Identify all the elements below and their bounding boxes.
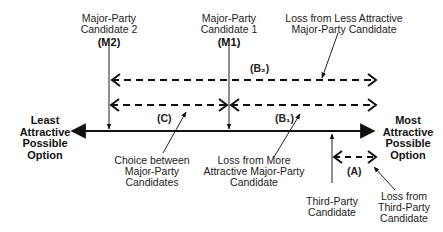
segment-c-label: (C)	[157, 112, 172, 124]
right-endpoint-line3: Possible	[375, 138, 441, 150]
right-endpoint-label: Most Attractive Possible Option	[375, 115, 441, 161]
loss-more-attractive-line3: Candidate	[198, 177, 310, 188]
right-endpoint-line4: Option	[375, 150, 441, 162]
loss-third-party-label: Loss from Third-Party Candidate	[372, 191, 436, 224]
m1-code: (M1)	[199, 37, 259, 49]
segment-a-label: (A)	[347, 165, 362, 177]
loss-third-party-line3: Candidate	[372, 213, 436, 224]
loss-less-attractive-label: Loss from Less Attractive Major-Party Ca…	[284, 13, 404, 35]
left-endpoint-line1: Least	[12, 115, 78, 127]
loss-more-attractive-label: Loss from More Attractive Major-Party Ca…	[198, 155, 310, 188]
segment-c-arrow	[111, 99, 227, 111]
segment-b2-arrow	[112, 74, 376, 86]
m2-label-line2: Candidate 2	[79, 24, 139, 35]
third-party-label: Third-Party Candidate	[300, 196, 364, 218]
left-endpoint-label: Least Attractive Possible Option	[12, 115, 78, 161]
segment-a-arrow	[334, 151, 376, 163]
choice-between-line3: Candidates	[112, 177, 192, 188]
loss-third-party-pointer	[374, 167, 395, 190]
loss-less-attractive-line2: Major-Party Candidate	[284, 24, 404, 35]
segment-b1-label: (B₁)	[275, 112, 294, 124]
m1-label-line2: Candidate 1	[199, 24, 259, 35]
left-endpoint-line3: Possible	[12, 138, 78, 150]
choice-between-label: Choice between Major-Party Candidates	[112, 155, 192, 188]
loss-less-attractive-pointer	[322, 33, 338, 78]
segment-b1-arrow	[231, 99, 376, 111]
segment-b2-label: (B₂)	[250, 62, 269, 74]
m2-label: Major-Party Candidate 2 (M2)	[79, 13, 139, 49]
third-party-label-line2: Candidate	[300, 207, 364, 218]
right-endpoint-line1: Most	[375, 115, 441, 127]
m2-code: (M2)	[79, 37, 139, 49]
m1-label: Major-Party Candidate 1 (M1)	[199, 13, 259, 49]
left-endpoint-line4: Option	[12, 150, 78, 162]
